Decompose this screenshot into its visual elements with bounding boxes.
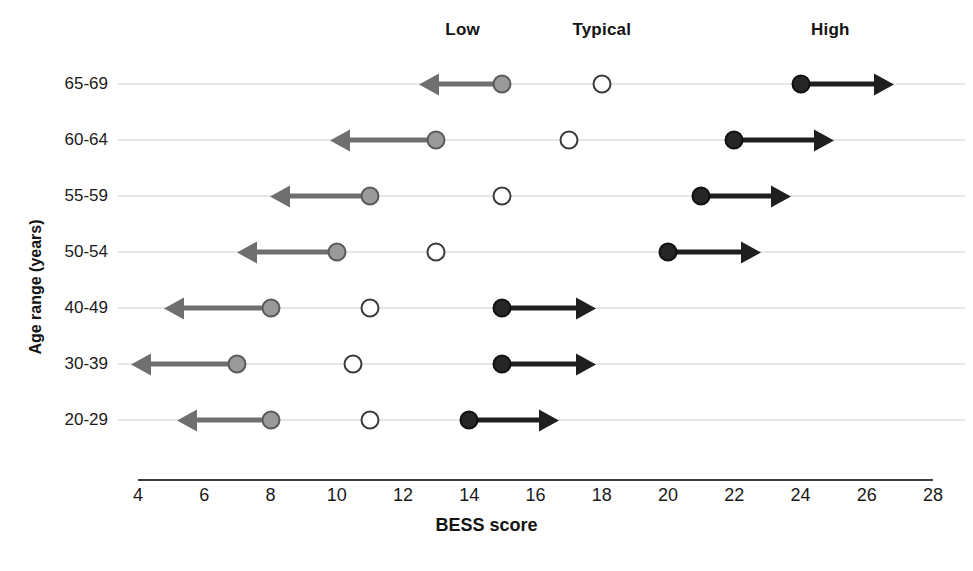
plot-area: 65-6960-6455-5950-5440-4930-3920-29 [0, 56, 973, 471]
marker-low [427, 131, 446, 150]
marker-typical [360, 411, 379, 430]
low-arrow-head [164, 297, 184, 319]
low-arrow-head [419, 73, 439, 95]
marker-high [725, 131, 744, 150]
marker-high [659, 243, 678, 262]
marker-typical [344, 355, 363, 374]
high-arrow [502, 362, 578, 367]
marker-typical [559, 131, 578, 150]
marker-typical [592, 75, 611, 94]
marker-low [261, 299, 280, 318]
marker-low [493, 75, 512, 94]
x-tick-label: 12 [393, 485, 413, 506]
y-axis-title: Age range (years) [27, 177, 45, 397]
row-label-age-range: 20-29 [18, 410, 108, 430]
chart-row: 40-49 [0, 286, 973, 330]
high-arrow-head [874, 73, 894, 95]
x-tick-label: 6 [199, 485, 209, 506]
row-label-age-range: 65-69 [18, 74, 108, 94]
high-arrow-shaft [668, 250, 744, 255]
chart-row: 60-64 [0, 118, 973, 162]
high-arrow [469, 418, 542, 423]
marker-high [791, 75, 810, 94]
high-arrow-shaft [469, 418, 542, 423]
marker-low [327, 243, 346, 262]
x-tick-label: 14 [459, 485, 479, 506]
legend-label-high: High [811, 20, 850, 40]
high-arrow-shaft [502, 306, 578, 311]
low-arrow-head [330, 129, 350, 151]
marker-low [228, 355, 247, 374]
high-arrow-head [814, 129, 834, 151]
marker-typical [493, 187, 512, 206]
low-arrow-shaft [287, 194, 370, 199]
low-arrow-head [177, 409, 197, 431]
chart-row: 20-29 [0, 398, 973, 442]
x-tick-label: 18 [592, 485, 612, 506]
marker-low [261, 411, 280, 430]
high-arrow-shaft [502, 362, 578, 367]
legend-label-low: Low [445, 20, 480, 40]
x-axis-title: BESS score [0, 515, 973, 536]
bess-score-chart: LowTypicalHigh 65-6960-6455-5950-5440-49… [0, 0, 973, 571]
low-arrow [194, 418, 270, 423]
x-tick-label: 26 [857, 485, 877, 506]
x-axis-line [138, 479, 933, 481]
marker-high [460, 411, 479, 430]
marker-high [493, 299, 512, 318]
low-arrow [148, 362, 237, 367]
x-tick-label: 28 [923, 485, 943, 506]
legend-label-typical: Typical [572, 20, 631, 40]
x-tick-label: 4 [133, 485, 143, 506]
marker-high [493, 355, 512, 374]
high-arrow [701, 194, 774, 199]
marker-typical [427, 243, 446, 262]
high-arrow [801, 82, 877, 87]
row-baseline [118, 140, 965, 141]
x-tick-label: 8 [265, 485, 275, 506]
high-arrow-head [576, 297, 596, 319]
low-arrow [181, 306, 270, 311]
low-arrow-head [237, 241, 257, 263]
low-arrow-shaft [181, 306, 270, 311]
high-arrow-head [771, 185, 791, 207]
low-arrow [287, 194, 370, 199]
x-tick-label: 16 [525, 485, 545, 506]
row-label-age-range: 60-64 [18, 130, 108, 150]
high-arrow-head [539, 409, 559, 431]
x-tick-label: 24 [790, 485, 810, 506]
high-arrow [502, 306, 578, 311]
chart-legend: LowTypicalHigh [0, 0, 973, 56]
low-arrow-shaft [148, 362, 237, 367]
low-arrow-shaft [254, 250, 337, 255]
chart-row: 30-39 [0, 342, 973, 386]
marker-low [360, 187, 379, 206]
x-tick-label: 10 [327, 485, 347, 506]
high-arrow-shaft [734, 138, 817, 143]
x-axis: BESS score 46810121416182022242628 [0, 471, 973, 571]
high-arrow-shaft [701, 194, 774, 199]
x-tick-label: 20 [658, 485, 678, 506]
low-arrow-shaft [194, 418, 270, 423]
row-baseline [118, 196, 965, 197]
high-arrow-shaft [801, 82, 877, 87]
chart-row: 65-69 [0, 62, 973, 106]
low-arrow-head [270, 185, 290, 207]
low-arrow [254, 250, 337, 255]
high-arrow-head [741, 241, 761, 263]
marker-typical [360, 299, 379, 318]
high-arrow-head [576, 353, 596, 375]
low-arrow-shaft [347, 138, 436, 143]
high-arrow [734, 138, 817, 143]
low-arrow [347, 138, 436, 143]
chart-row: 55-59 [0, 174, 973, 218]
marker-high [692, 187, 711, 206]
low-arrow-head [131, 353, 151, 375]
chart-row: 50-54 [0, 230, 973, 274]
high-arrow [668, 250, 744, 255]
x-tick-label: 22 [724, 485, 744, 506]
